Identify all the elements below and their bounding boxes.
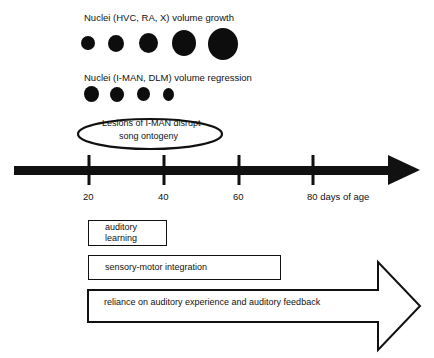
tick-mark-1 xyxy=(88,155,91,185)
tick-mark-4 xyxy=(312,155,315,185)
auditory-learning-line2: learning xyxy=(105,233,137,244)
tick-label-3: 60 xyxy=(233,191,244,202)
timeline-arrowhead xyxy=(388,155,420,185)
tick-label-2: 40 xyxy=(158,191,169,202)
auditory-learning-line1: auditory xyxy=(105,222,137,233)
tick-label-1: 20 xyxy=(83,191,94,202)
timeline-shaft xyxy=(14,166,392,175)
sensory-motor-box: sensory-motor integration xyxy=(88,255,281,280)
auditory-learning-box: auditory learning xyxy=(88,220,167,246)
lesion-text-line2: song ontogeny xyxy=(119,131,178,141)
tick-label-4: 80 days of age xyxy=(307,191,369,202)
sensory-motor-label: sensory-motor integration xyxy=(105,262,207,273)
tick-mark-2 xyxy=(163,155,166,185)
lesion-text-line1: Lesions of I-MAN disrupt xyxy=(102,118,201,128)
tick-mark-3 xyxy=(238,155,241,185)
reliance-label: reliance on auditory experience and audi… xyxy=(104,297,320,307)
